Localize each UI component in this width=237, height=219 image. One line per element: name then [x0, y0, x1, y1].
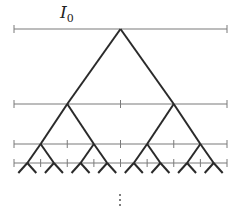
binary-tree-interval-diagram — [0, 0, 237, 219]
tree-branch-left — [67, 29, 120, 104]
tree-branch-right — [147, 144, 160, 163]
tree-branch-left — [205, 163, 214, 173]
tree-branch-right — [81, 163, 90, 173]
tree-branch-left — [147, 104, 174, 144]
tree-branch-right — [174, 104, 201, 144]
tree-branch-right — [41, 144, 54, 163]
tree-branch-left — [125, 163, 134, 173]
tree-branch-right — [107, 163, 116, 173]
tree-branch-right — [134, 163, 143, 173]
continuation-ellipsis — [117, 194, 123, 206]
tree-branch-right — [200, 144, 213, 163]
tree-branch-left — [81, 144, 94, 163]
tree-branch-left — [98, 163, 107, 173]
tree-branch-left — [134, 144, 147, 163]
tree-branch-right — [121, 29, 174, 104]
tree-branch-left — [187, 144, 200, 163]
tree-branch-right — [94, 144, 107, 163]
tree-branch-right — [54, 163, 63, 173]
tree-branch-right — [214, 163, 223, 173]
tree-branch-right — [187, 163, 196, 173]
tree-branch-left — [178, 163, 187, 173]
tree-branch-left — [72, 163, 81, 173]
tree-branch-left — [151, 163, 160, 173]
tree-branch-right — [160, 163, 169, 173]
tree-branch-left — [41, 104, 68, 144]
tree-branch-left — [45, 163, 54, 173]
tree-branch-left — [18, 163, 27, 173]
tree-branch-left — [27, 144, 40, 163]
tree-branch-right — [27, 163, 36, 173]
tree-branch-right — [67, 104, 94, 144]
